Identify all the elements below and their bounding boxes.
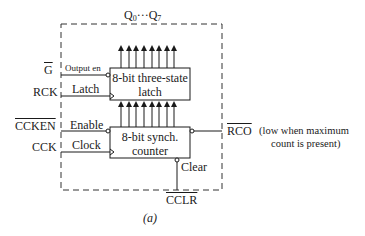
- counter-line2: counter: [110, 145, 190, 157]
- bus-label: Q0···Q7: [124, 9, 161, 23]
- signal-ccken: CCKEN: [15, 120, 56, 132]
- signal-cck: CCK: [32, 141, 57, 153]
- pin-label-clear: Clear: [181, 161, 207, 173]
- bus-label-q0: Q: [124, 8, 133, 22]
- counter-line1: 8-bit synch.: [110, 131, 190, 143]
- counter-block-label: 8-bit synch. counter: [110, 131, 190, 157]
- q-output-arrows: [121, 48, 174, 68]
- pin-label-clock: Clock: [72, 139, 101, 151]
- signal-g: G: [44, 64, 53, 76]
- rco-note-line1: (low when maximum: [259, 126, 349, 137]
- bus-label-sub7: 7: [157, 14, 161, 23]
- signal-rck: RCK: [33, 86, 58, 98]
- rco-note: (low when maximum count is present): [259, 126, 349, 149]
- latch-line2: latch: [110, 86, 190, 98]
- latch-block-label: 8-bit three-state latch: [110, 72, 190, 98]
- internal-bus-arrows: [121, 104, 174, 127]
- rco-note-line2: count is present): [271, 139, 349, 150]
- pin-label-latch: Latch: [72, 83, 99, 95]
- clear-inversion-bubble: [175, 158, 179, 162]
- signal-rco: RCO: [227, 125, 252, 137]
- pin-label-output-en: Output en: [65, 64, 101, 73]
- signal-cclr: CCLR: [166, 194, 197, 206]
- figure-caption: (a): [143, 212, 157, 224]
- pin-label-enable: Enable: [70, 119, 103, 131]
- rco-inversion-bubble: [190, 129, 194, 133]
- bus-label-dots: ···: [137, 8, 149, 22]
- latch-line1: 8-bit three-state: [110, 72, 190, 84]
